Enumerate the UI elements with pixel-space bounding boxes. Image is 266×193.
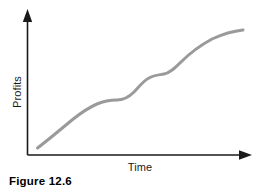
y-axis-arrowhead-icon — [23, 9, 32, 22]
figure-container: Profits Time Figure 12.6 — [0, 0, 266, 193]
y-axis-label: Profits — [12, 75, 23, 109]
figure-caption: Figure 12.6 — [9, 176, 72, 188]
x-axis-arrowhead-icon — [239, 150, 252, 159]
profit-trend-line — [38, 30, 244, 148]
x-axis-label: Time — [110, 162, 170, 173]
